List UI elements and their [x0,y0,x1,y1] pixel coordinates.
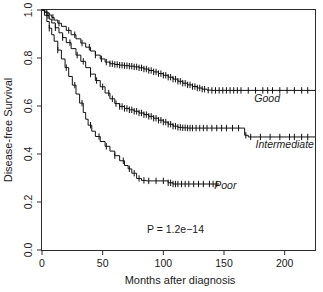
curve-poor [42,10,219,184]
y-axis: 0.00.20.40.60.81.0 [22,3,42,258]
y-tick-label-0.2: 0.2 [22,195,34,210]
p-value-annotation: P = 1.2e−14 [147,223,204,235]
km-survival-chart: 050100150200 0.00.20.40.60.81.0 GoodInte… [0,0,323,292]
y-tick-label-0.8: 0.8 [22,51,34,66]
x-tick-label-150: 150 [215,257,233,269]
y-tick-label-0.4: 0.4 [22,147,34,162]
x-axis-label: Months after diagnosis [125,274,236,286]
x-axis: 050100150200 [39,250,294,269]
y-tick-label-0.6: 0.6 [22,99,34,114]
series-label-intermediate: Intermediate [256,138,315,150]
x-tick-label-200: 200 [276,257,294,269]
curve-labels: GoodIntermediatePoor [214,92,314,190]
x-tick-label-100: 100 [155,257,173,269]
y-axis-label: Disease-free Survival [2,78,14,183]
curve-intermediate [42,10,315,137]
x-tick-label-50: 50 [97,257,109,269]
series-label-poor: Poor [214,179,237,191]
y-tick-label-0.0: 0.0 [22,243,34,258]
x-tick-label-0: 0 [39,257,45,269]
series-label-good: Good [254,92,281,104]
curve-good [42,10,315,90]
plot-canvas: 050100150200 0.00.20.40.60.81.0 GoodInte… [0,0,323,292]
plot-frame [42,10,316,251]
y-tick-label-1.0: 1.0 [22,3,34,18]
